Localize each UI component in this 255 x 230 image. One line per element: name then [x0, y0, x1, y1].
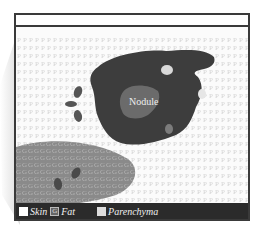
legend-item-parenchyma: Parenchyma: [75, 206, 158, 217]
legend-item-skin: Skin: [16, 206, 47, 217]
calcification-spot: [198, 89, 206, 99]
satellite-lesion: [65, 101, 77, 107]
legend-label-fat: Fat: [61, 206, 75, 217]
parenchyma-swatch: [97, 207, 106, 216]
vessel-spot: [165, 124, 173, 134]
nodule-label: Nodule: [129, 96, 159, 107]
fat-swatch: G: [50, 207, 59, 216]
calcification-spot: [161, 65, 173, 75]
legend-label-parenchyma: Parenchyma: [108, 206, 158, 217]
tissue-illustration: P G Nodu: [16, 27, 248, 203]
skin-swatch: [19, 207, 28, 216]
legend-item-fat: G Fat: [47, 206, 75, 217]
diagram-frame: P G Nodu: [14, 13, 250, 221]
tissue-area: P G Nodu: [16, 27, 248, 203]
skin-layer-bar: [16, 15, 248, 27]
legend-bar: Skin G Fat Parenchyma: [16, 203, 248, 219]
legend-label-skin: Skin: [30, 206, 47, 217]
